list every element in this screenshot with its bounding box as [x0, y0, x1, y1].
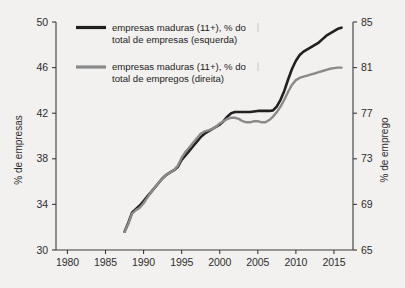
chart-container: 303438424650 656973778185 19801985199019… — [0, 0, 405, 288]
right-axis-tick-label: 69 — [361, 198, 373, 210]
x-axis-tick-label: 1980 — [56, 256, 79, 268]
x-axis-tick-label: 2005 — [246, 256, 269, 268]
left-axis-tick-label: 38 — [37, 152, 49, 164]
y-axis-title: % de empresas — [13, 115, 24, 184]
legend-label-1-line1: empresas maduras (11+), % do — [112, 22, 246, 33]
left-axis-tick-label: 46 — [37, 61, 49, 73]
right-axis-tick-label: 81 — [361, 61, 373, 73]
right-axis-tick-label: 85 — [361, 16, 373, 28]
right-axis-tick-label: 73 — [361, 152, 373, 164]
x-axis-tick-label: 1990 — [132, 256, 155, 268]
right-axis-tick-label: 77 — [361, 107, 373, 119]
x-axis-tick-label: 2015 — [322, 256, 345, 268]
x-axis-tick-label: 1985 — [94, 256, 117, 268]
x-axis-tick-label: 2010 — [284, 256, 307, 268]
left-axis-tick-label: 42 — [37, 107, 49, 119]
x-axis-tick-label: 2000 — [208, 256, 231, 268]
x-axis-tick-label: 1995 — [170, 256, 193, 268]
left-axis-tick-label: 30 — [37, 244, 49, 256]
left-axis-tick-label: 50 — [37, 16, 49, 28]
legend-label-1-line2: total de empresas (esquerda) — [112, 34, 237, 45]
y2-axis-title: % de emprego — [379, 117, 390, 182]
left-axis-tick-label: 34 — [37, 198, 49, 210]
right-axis-tick-label: 65 — [361, 244, 373, 256]
legend-label-2-line2: total de empregos (direita) — [112, 73, 224, 84]
line-chart: 303438424650 656973778185 19801985199019… — [0, 0, 405, 288]
legend-label-2-line1: empresas maduras (11+), % do — [112, 61, 246, 72]
